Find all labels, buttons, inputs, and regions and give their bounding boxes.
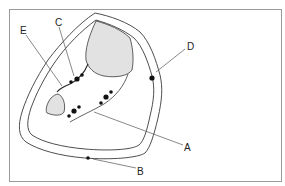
dot-b xyxy=(86,156,90,160)
label-d: D xyxy=(187,41,194,52)
cross-section-diagram: C E D A B xyxy=(0,0,285,186)
label-e: E xyxy=(20,25,27,36)
figure-border xyxy=(10,10,282,182)
label-b: B xyxy=(137,166,144,177)
label-a: A xyxy=(184,142,191,153)
label-c: C xyxy=(55,17,62,28)
dot-d xyxy=(149,75,154,80)
